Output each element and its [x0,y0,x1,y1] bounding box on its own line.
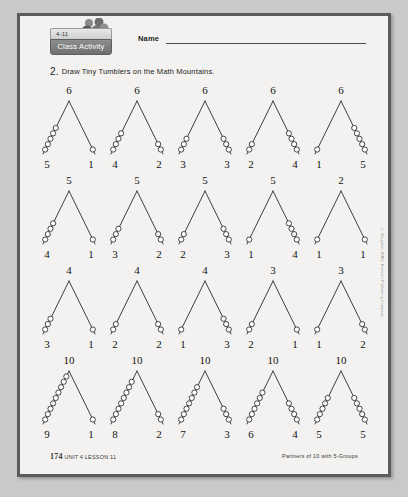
math-mountain[interactable]: 431 [36,264,102,352]
mountain-partner-right: 2 [149,338,169,350]
mountain-partner-left: 1 [241,248,261,260]
mountain-partner-left: 5 [309,428,329,440]
math-mountain-row: 10911082107310641055 [20,354,388,444]
mountain-partner-right: 3 [217,248,237,260]
worksheet-page: 4-11 Class Activity Name 2.Draw Tiny Tum… [17,13,391,477]
mountain-partner-right: 2 [353,338,373,350]
page-header: 4-11 Class Activity Name [20,16,388,68]
math-mountain[interactable]: 642 [104,84,170,172]
mountain-partner-right: 2 [149,158,169,170]
mountain-partner-left: 1 [309,338,329,350]
math-mountain[interactable]: 514 [240,174,306,262]
mountain-total: 10 [172,354,238,366]
mountain-total: 3 [308,264,374,276]
mountain-partner-left: 3 [37,338,57,350]
math-mountain[interactable]: 321 [240,264,306,352]
footer-page-reference: 174UNIT 4 LESSON 11 [50,452,116,461]
instruction-line: 2.Draw Tiny Tumblers on the Math Mountai… [50,66,215,77]
math-mountain[interactable]: 211 [308,174,374,262]
page-footer: 174UNIT 4 LESSON 11 Partners of 10 with … [20,452,388,464]
mountain-partner-right: 1 [81,428,101,440]
math-mountain-row: 541532523514211 [20,174,388,264]
mountain-partner-right: 1 [81,158,101,170]
mountain-total: 10 [308,354,374,366]
mountain-partner-right: 4 [285,428,305,440]
mountain-partner-left: 1 [173,338,193,350]
mountain-partner-right: 1 [285,338,305,350]
name-field-rule[interactable] [166,43,366,44]
mountain-total: 6 [240,84,306,96]
mountain-partner-right: 5 [353,428,373,440]
math-mountain[interactable]: 615 [308,84,374,172]
math-mountain[interactable]: 1082 [104,354,170,442]
badge-lesson-number: 4-11 [50,28,112,39]
mountain-partner-right: 2 [149,428,169,440]
math-mountain[interactable]: 1091 [36,354,102,442]
mountain-partner-left: 2 [241,158,261,170]
math-mountain[interactable]: 633 [172,84,238,172]
math-mountain[interactable]: 1073 [172,354,238,442]
mountain-total: 5 [240,174,306,186]
mountain-partner-left: 3 [173,158,193,170]
math-mountain-row: 431422413321312 [20,264,388,354]
mountain-partner-right: 3 [217,158,237,170]
mountain-partner-left: 5 [37,158,57,170]
mountain-partner-left: 1 [309,248,329,260]
mountain-partner-right: 3 [217,428,237,440]
math-mountain[interactable]: 624 [240,84,306,172]
math-mountain[interactable]: 413 [172,264,238,352]
mountain-total: 10 [104,354,170,366]
unit-lesson-label: UNIT 4 LESSON 11 [65,454,117,460]
mountain-total: 10 [36,354,102,366]
mountain-partner-left: 3 [105,248,125,260]
mountain-partner-right: 1 [81,248,101,260]
footer-topic: Partners of 10 with 5-Groups [282,453,358,459]
mountain-partner-right: 2 [149,248,169,260]
name-field-label: Name [138,34,159,43]
mountain-total: 3 [240,264,306,276]
math-mountain[interactable]: 1064 [240,354,306,442]
math-mountain[interactable]: 532 [104,174,170,262]
mountain-partner-left: 2 [241,338,261,350]
mountain-partner-left: 8 [105,428,125,440]
mountain-total: 5 [172,174,238,186]
instruction-text: Draw Tiny Tumblers on the Math Mountains… [62,67,215,76]
mountain-total: 10 [240,354,306,366]
mountain-total: 6 [36,84,102,96]
mountain-partner-left: 2 [105,338,125,350]
mountain-partner-left: 7 [173,428,193,440]
mountain-total: 6 [172,84,238,96]
mountain-total: 6 [308,84,374,96]
mountain-partner-left: 4 [37,248,57,260]
mountain-partner-right: 4 [285,158,305,170]
question-number: 2. [50,66,59,77]
math-mountain[interactable]: 1055 [308,354,374,442]
mountain-partner-right: 1 [81,338,101,350]
mountain-partner-right: 5 [353,158,373,170]
mountain-total: 5 [36,174,102,186]
mountain-partner-left: 4 [105,158,125,170]
mountain-total: 5 [104,174,170,186]
mountain-total: 4 [36,264,102,276]
math-mountain[interactable]: 651 [36,84,102,172]
mountain-partner-left: 1 [309,158,329,170]
page-number: 174 [50,452,63,461]
mountain-total: 4 [172,264,238,276]
mountain-partner-left: 6 [241,428,261,440]
lesson-badge: 4-11 Class Activity [50,28,112,55]
mountain-total: 4 [104,264,170,276]
mountain-partner-left: 9 [37,428,57,440]
mountain-total: 2 [308,174,374,186]
math-mountain-grid: 6516426336246155415325235142114314224133… [20,84,388,444]
math-mountain[interactable]: 523 [172,174,238,262]
math-mountain[interactable]: 422 [104,264,170,352]
badge-activity-label: Class Activity [50,39,112,55]
mountain-total: 6 [104,84,170,96]
mountain-partner-right: 3 [217,338,237,350]
mountain-partner-right: 1 [353,248,373,260]
math-mountain[interactable]: 312 [308,264,374,352]
mountain-partner-right: 4 [285,248,305,260]
math-mountain-row: 651642633624615 [20,84,388,174]
math-mountain[interactable]: 541 [36,174,102,262]
mountain-partner-left: 2 [173,248,193,260]
